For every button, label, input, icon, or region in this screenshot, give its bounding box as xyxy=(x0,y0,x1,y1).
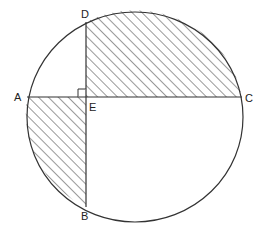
label-e: E xyxy=(89,101,96,113)
shaded-region-aeb xyxy=(26,97,86,207)
circle-chords-diagram: A C D B E xyxy=(0,0,265,236)
label-a: A xyxy=(14,91,22,103)
shaded-region-dec xyxy=(86,10,242,97)
label-d: D xyxy=(81,8,89,20)
label-c: C xyxy=(245,92,253,104)
label-b: B xyxy=(81,210,88,222)
right-angle-marker xyxy=(78,89,86,97)
